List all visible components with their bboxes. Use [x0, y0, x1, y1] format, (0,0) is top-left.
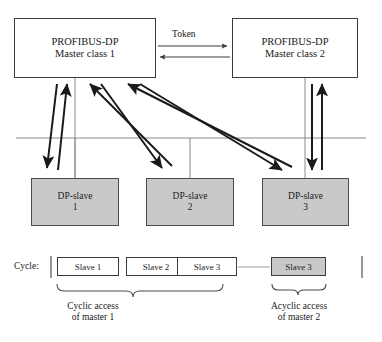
profibus-diagram: PROFIBUS-DP Master class 1 PROFIBUS-DP M… — [0, 0, 382, 342]
acyclic-access-brace — [272, 284, 326, 295]
dp-slave-2-line-1: DP-slave — [173, 191, 208, 202]
acyclic-access-caption: Acyclic access of master 2 — [252, 301, 346, 324]
dp-slave-3-line-2: 3 — [303, 202, 308, 213]
cyclic-access-line-2: of master 1 — [48, 312, 138, 323]
dp-slave-2-box[interactable]: DP-slave 2 — [146, 178, 234, 226]
cycle-slot-slave-2-label: Slave 2 — [143, 262, 170, 272]
dp-slave-3-line-1: DP-slave — [288, 191, 323, 202]
arrow-slave1-to-master1 — [58, 84, 67, 170]
cycle-slot-slave-3-acyclic-label: Slave 3 — [285, 262, 312, 272]
cyclic-access-caption: Cyclic access of master 1 — [48, 301, 138, 324]
dp-slave-1-box[interactable]: DP-slave 1 — [31, 178, 119, 226]
arrow-master1-to-slave1 — [47, 84, 57, 168]
master-1-line-2: Master class 1 — [55, 48, 115, 60]
cycle-slot-slave-3[interactable]: Slave 3 — [177, 257, 237, 276]
cycle-slot-slave-1-label: Slave 1 — [75, 262, 102, 272]
cycle-label: Cycle: — [14, 261, 39, 271]
acyclic-access-line-2: of master 2 — [252, 312, 346, 323]
master-2-line-1: PROFIBUS-DP — [261, 36, 328, 48]
dp-slave-1-line-1: DP-slave — [58, 191, 93, 202]
cycle-slot-slave-1[interactable]: Slave 1 — [57, 257, 119, 276]
dp-slave-2-line-2: 2 — [188, 202, 193, 213]
token-label: Token — [172, 29, 196, 39]
cyclic-access-line-1: Cyclic access — [48, 301, 138, 312]
cyclic-access-brace — [57, 284, 223, 297]
acyclic-access-line-1: Acyclic access — [252, 301, 346, 312]
cycle-slot-slave-3-label: Slave 3 — [194, 262, 221, 272]
master-class-1-box[interactable]: PROFIBUS-DP Master class 1 — [14, 18, 156, 78]
dp-slave-1-line-2: 1 — [73, 202, 78, 213]
cycle-slot-slave-3-acyclic[interactable]: Slave 3 — [271, 257, 326, 276]
master-class-2-box[interactable]: PROFIBUS-DP Master class 2 — [232, 18, 358, 78]
dp-slave-3-box[interactable]: DP-slave 3 — [262, 178, 349, 226]
master-2-line-2: Master class 2 — [265, 48, 325, 60]
master-1-line-1: PROFIBUS-DP — [51, 36, 118, 48]
